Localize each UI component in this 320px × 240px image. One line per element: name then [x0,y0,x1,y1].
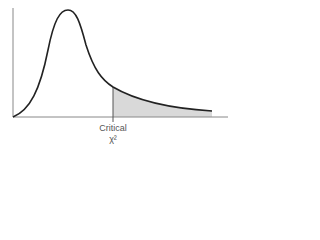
chi-square-symbol: χ² [88,134,138,144]
shaded-critical-region [113,87,212,117]
critical-label: Critical [88,123,138,133]
